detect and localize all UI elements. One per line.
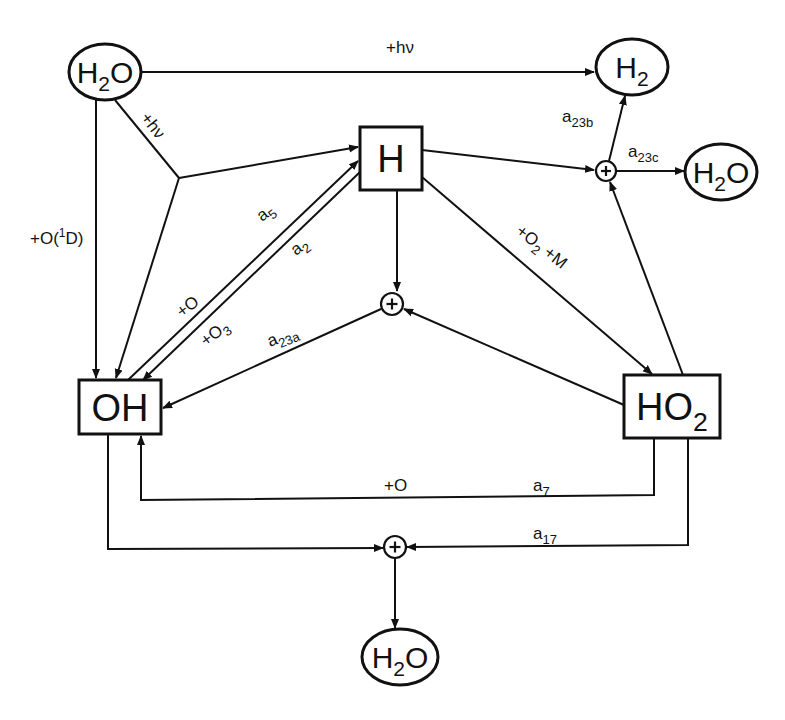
edge-ho2-to-plus-top-right [610,182,683,375]
node-h: H [360,127,422,190]
edge-oh-to-plus-bottom [108,434,383,549]
species-label: H [377,138,404,180]
label-o1d: +O(1D) [30,226,83,248]
edge-h-to-plus-top-right [422,150,594,170]
label-plus-o: +O [173,292,203,321]
edge-oh-to-h-a5 [128,161,358,380]
sum-junctions [381,161,616,558]
label-a23a: a23a [264,321,302,354]
label-h2o-to-h2: +hν [386,38,414,57]
reaction-diagram: H2OH2H2OH2OHOHHO2 +hν+hν+O(1D)a5a2+O+O3a… [0,0,785,720]
node-h2: H2 [596,39,668,95]
edge-junction-to-oh [116,178,179,378]
node-h2o-right: H2O [685,144,757,200]
node-oh: OH [79,380,161,434]
edge-junction-to-h [179,147,358,178]
node-h2o-source: H2O [69,44,141,100]
nodes: H2OH2H2OH2OHOHHO2 [69,39,757,685]
edge-plus-middle-to-oh-a23a [163,309,381,408]
sum-node-top-right [596,161,616,181]
sum-node-bottom [384,536,406,558]
label-plus-o-bottom: +O [384,476,407,495]
label-o2-m: +O2 +M [510,221,571,276]
sum-node-middle [381,293,403,315]
edge-h-to-ho2 [422,177,652,374]
edge-labels: +hν+hν+O(1D)a5a2+O+O3a23aa23ba23c+O2 +M+… [30,38,659,547]
label-h2o-photolysis: +hν [137,109,169,143]
edge-h-to-oh-a2 [143,172,360,380]
label-a5: a5 [253,200,280,228]
node-h2o-bottom: H2O [362,629,438,685]
label-a17: a17 [533,524,557,547]
label-a23b: a23b [562,107,593,130]
label-a23c: a23c [628,142,659,165]
edge-plus-to-h2-a23b [609,96,625,161]
edge-ho2-to-plus-middle [404,309,624,405]
node-ho2: HO2 [624,375,720,438]
species-label: OH [92,387,149,429]
